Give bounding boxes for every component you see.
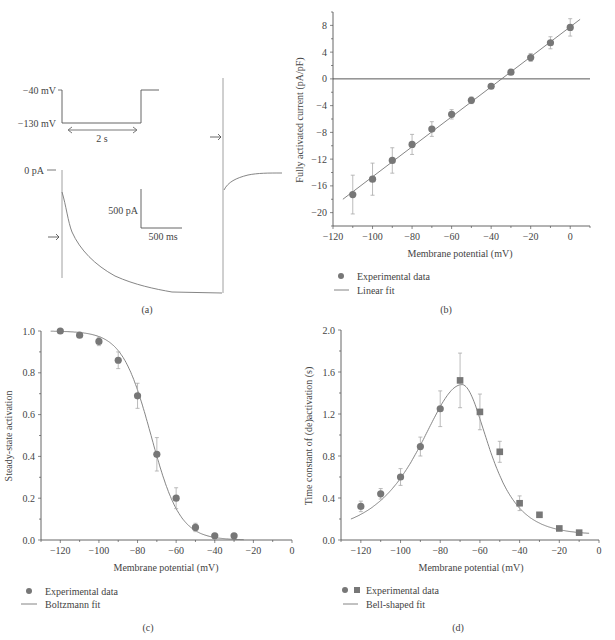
data-point-circle: [95, 338, 102, 345]
legend-label: Bell-shaped fit: [366, 599, 425, 610]
fit-line: [343, 19, 580, 199]
data-point-circle: [173, 495, 180, 502]
data-point-circle: [76, 332, 83, 339]
data-point-square: [576, 529, 583, 536]
data-point-circle: [567, 24, 574, 31]
panel-d: −120−100−80−60−40−2000.00.40.81.21.62.0 …: [303, 325, 602, 635]
y-tick-label: −20: [311, 207, 327, 218]
y-tick-label: 2.0: [323, 325, 336, 336]
data-point-circle: [369, 176, 376, 183]
tail-current-trace: [224, 173, 282, 190]
y-tick-label: 8: [322, 20, 327, 31]
data-point-circle: [389, 157, 396, 164]
x-tick-label: −80: [432, 545, 448, 556]
x-tick-label: −20: [246, 545, 262, 556]
data-point-circle: [377, 490, 384, 497]
scale-time-label: 500 ms: [148, 231, 177, 242]
data-point-circle: [488, 83, 495, 90]
c-axes: −120−100−80−60−40−2000.00.20.40.60.81.0: [23, 326, 295, 557]
y-tick-label: 0.8: [23, 367, 36, 378]
fit-curve: [51, 331, 244, 540]
data-point-circle: [547, 39, 554, 46]
y-tick-label: −8: [316, 127, 327, 138]
current-trace: [62, 192, 222, 293]
y-tick-label: 1.6: [323, 367, 336, 378]
d-data-points: [351, 353, 589, 536]
y-tick-label: 4: [322, 47, 327, 58]
x-tick-label: −100: [89, 545, 110, 556]
y-tick-label: −4: [316, 100, 327, 111]
legend-label: Boltzmann fit: [45, 599, 100, 610]
arrow-right-icon: [48, 234, 59, 240]
v-low-label: −130 mV: [18, 118, 57, 129]
x-tick-label: −20: [551, 545, 567, 556]
y-tick-label: 0.4: [323, 493, 336, 504]
x-tick-label: −20: [523, 231, 539, 242]
legend-circle-marker-icon: [26, 588, 32, 594]
legend-circle-marker-icon: [338, 273, 344, 279]
data-point-circle: [437, 405, 444, 412]
data-point-circle: [230, 532, 237, 539]
data-point-circle: [134, 392, 141, 399]
d-axes: −120−100−80−60−40−2000.00.40.81.21.62.0: [323, 325, 602, 557]
y-tick-label: 1.2: [323, 409, 336, 420]
b-data-points: [343, 19, 580, 214]
c-xlabel: Membrane potential (mV): [114, 562, 219, 574]
b-legend: Experimental data Linear fit: [334, 271, 431, 296]
b-xlabel: Membrane potential (mV): [408, 248, 513, 260]
data-point-circle: [448, 111, 455, 118]
panel-c: −120−100−80−60−40−2000.00.20.40.60.81.0 …: [3, 326, 295, 635]
data-point-square: [556, 525, 563, 532]
legend-label: Experimental data: [366, 585, 440, 596]
x-tick-label: 0: [290, 545, 295, 556]
x-tick-label: 0: [568, 231, 573, 242]
x-tick-label: −80: [130, 545, 146, 556]
data-point-circle: [211, 532, 218, 539]
panel-caption-b: (b): [440, 304, 452, 316]
panel-caption-a: (a): [141, 304, 152, 316]
data-point-circle: [192, 524, 199, 531]
d-xlabel: Membrane potential (mV): [419, 562, 524, 574]
x-tick-label: −60: [168, 545, 184, 556]
x-tick-label: −60: [472, 545, 488, 556]
data-point-square: [496, 449, 503, 456]
data-point-square: [536, 512, 543, 519]
data-point-circle: [357, 503, 364, 510]
y-tick-label: −16: [311, 180, 327, 191]
data-point-circle: [527, 54, 534, 61]
panel-caption-c: (c): [142, 622, 153, 634]
arrow-right-icon: [210, 134, 221, 140]
x-tick-label: −120: [351, 545, 372, 556]
legend-label: Experimental data: [357, 271, 431, 282]
panel-caption-d: (d): [452, 622, 464, 634]
d-legend: Experimental data Bell-shaped fit: [342, 585, 440, 610]
c-ylabel: Steady-state activation: [3, 391, 14, 482]
data-point-square: [477, 409, 484, 416]
x-tick-label: −40: [483, 231, 499, 242]
data-point-circle: [507, 69, 514, 76]
y-tick-label: 0.2: [23, 493, 36, 504]
legend-square-marker-icon: [354, 587, 360, 593]
b-ylabel: Fully activated current (pA/pF): [294, 57, 306, 182]
x-tick-label: −100: [390, 545, 411, 556]
legend-circle-marker-icon: [342, 587, 348, 593]
x-tick-label: −60: [444, 231, 460, 242]
data-point-circle: [57, 327, 64, 334]
c-legend: Experimental data Boltzmann fit: [21, 586, 119, 610]
scale-current-label: 500 pA: [108, 205, 139, 216]
data-point-square: [457, 377, 464, 384]
duration-label: 2 s: [96, 133, 108, 144]
panel-b: −120−100−80−60−40−200−20−16−12−8−4048 Me…: [294, 12, 590, 316]
x-tick-label: −80: [404, 231, 420, 242]
panel-a: −40 mV −130 mV 2 s 0 pA 500 pA 500 ms: [18, 78, 282, 316]
legend-label: Experimental data: [45, 586, 119, 597]
fit-curve: [351, 385, 589, 534]
data-point-circle: [428, 125, 435, 132]
y-tick-label: 0.8: [323, 451, 336, 462]
x-tick-label: −120: [323, 231, 344, 242]
d-ylabel: Time constant of (de)activation (s): [303, 367, 315, 506]
y-tick-label: 0.6: [23, 409, 36, 420]
zero-current-label: 0 pA: [24, 165, 45, 176]
data-point-circle: [349, 191, 356, 198]
data-point-square: [516, 500, 523, 507]
